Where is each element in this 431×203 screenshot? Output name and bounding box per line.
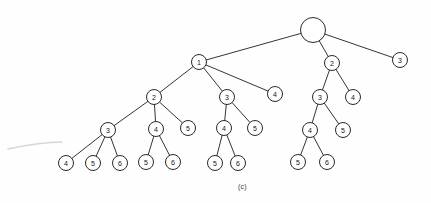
tree-edge bbox=[312, 104, 318, 123]
tree-node[interactable]: 3 bbox=[101, 123, 116, 138]
tree-node[interactable]: 5 bbox=[248, 121, 263, 136]
tree-node[interactable]: 5 bbox=[86, 156, 101, 171]
tree-edge bbox=[336, 69, 349, 90]
tree-edge bbox=[160, 102, 183, 123]
tree-edge bbox=[325, 34, 393, 57]
scan-smudge-artifact bbox=[8, 142, 62, 149]
tree-node-circle[interactable] bbox=[291, 155, 306, 170]
tree-node[interactable]: 5 bbox=[208, 156, 223, 171]
figure-caption: (c) bbox=[238, 183, 247, 190]
tree-node-circle[interactable] bbox=[149, 122, 164, 137]
tree-node-circle[interactable] bbox=[220, 90, 235, 105]
tree-node-circle[interactable] bbox=[325, 56, 340, 71]
scan-artifact-layer bbox=[8, 142, 62, 149]
tree-node[interactable]: 4 bbox=[59, 156, 74, 171]
tree-edge bbox=[206, 33, 301, 60]
tree-node[interactable]: 6 bbox=[320, 155, 335, 170]
tree-edge bbox=[159, 136, 169, 156]
tree-node-circle[interactable] bbox=[139, 155, 154, 170]
tree-node-circle[interactable] bbox=[113, 156, 128, 171]
tree-node[interactable]: 4 bbox=[303, 123, 318, 138]
tree-node[interactable]: 4 bbox=[217, 121, 232, 136]
tree-node[interactable]: 6 bbox=[113, 156, 128, 171]
tree-node[interactable]: 3 bbox=[313, 90, 328, 105]
tree-figure: 123234343454545456565656 (c) bbox=[0, 0, 431, 203]
tree-node-circle[interactable] bbox=[181, 121, 196, 136]
tree-node-circle[interactable] bbox=[101, 123, 116, 138]
tree-edge bbox=[225, 104, 227, 120]
tree-edge bbox=[319, 41, 328, 57]
tree-node[interactable]: 4 bbox=[346, 90, 361, 105]
tree-node[interactable]: 5 bbox=[139, 155, 154, 170]
tree-edge bbox=[217, 135, 222, 155]
tree-node-root[interactable] bbox=[301, 18, 326, 43]
tree-node-circle[interactable] bbox=[166, 155, 181, 170]
tree-node[interactable]: 4 bbox=[149, 122, 164, 137]
tree-node-circle[interactable] bbox=[303, 123, 318, 138]
tree-diagram-canvas: 123234343454545456565656 bbox=[0, 0, 431, 203]
tree-node-circle[interactable] bbox=[208, 156, 223, 171]
tree-node-circle[interactable] bbox=[217, 121, 232, 136]
tree-node-circle[interactable] bbox=[336, 123, 351, 138]
tree-edge bbox=[323, 70, 330, 90]
tree-edge bbox=[154, 104, 155, 121]
tree-node[interactable]: 3 bbox=[220, 90, 235, 105]
tree-node-circle[interactable] bbox=[301, 18, 326, 43]
tree-node-circle[interactable] bbox=[59, 156, 74, 171]
tree-edge bbox=[227, 135, 235, 156]
tree-node[interactable]: 1 bbox=[192, 55, 207, 70]
tree-node-circle[interactable] bbox=[346, 90, 361, 105]
tree-node[interactable]: 2 bbox=[325, 56, 340, 71]
tree-edge bbox=[72, 135, 102, 159]
tree-node-circle[interactable] bbox=[393, 53, 408, 68]
tree-node-circle[interactable] bbox=[147, 90, 162, 105]
tree-edge bbox=[114, 101, 148, 125]
tree-edge bbox=[148, 136, 154, 155]
tree-edge bbox=[324, 103, 338, 124]
tree-node[interactable]: 6 bbox=[166, 155, 181, 170]
tree-node-layer: 123234343454545456565656 bbox=[59, 18, 408, 171]
tree-edge bbox=[314, 137, 324, 156]
tree-node[interactable]: 3 bbox=[393, 53, 408, 68]
tree-node-circle[interactable] bbox=[192, 55, 207, 70]
tree-node-circle[interactable] bbox=[86, 156, 101, 171]
tree-node-circle[interactable] bbox=[268, 87, 283, 102]
tree-node[interactable]: 6 bbox=[231, 156, 246, 171]
tree-node-circle[interactable] bbox=[313, 90, 328, 105]
tree-edge bbox=[301, 137, 308, 155]
tree-node[interactable]: 5 bbox=[291, 155, 306, 170]
tree-node[interactable]: 5 bbox=[336, 123, 351, 138]
tree-node[interactable]: 5 bbox=[181, 121, 196, 136]
tree-edge bbox=[204, 68, 223, 91]
tree-node-circle[interactable] bbox=[231, 156, 246, 171]
tree-edge bbox=[96, 137, 105, 156]
tree-node-circle[interactable] bbox=[248, 121, 263, 136]
tree-node-circle[interactable] bbox=[320, 155, 335, 170]
tree-edge bbox=[232, 103, 250, 123]
tree-edge bbox=[206, 65, 268, 91]
tree-edge bbox=[111, 137, 118, 156]
tree-node[interactable]: 2 bbox=[147, 90, 162, 105]
tree-node[interactable]: 4 bbox=[268, 87, 283, 102]
tree-edge bbox=[160, 67, 193, 93]
